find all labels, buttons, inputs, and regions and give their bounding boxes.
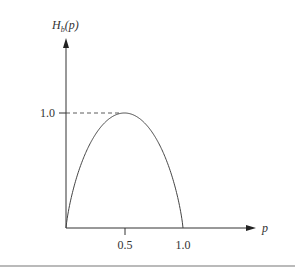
y-axis-arrow-icon xyxy=(63,38,69,48)
x-axis-label: p xyxy=(261,221,268,235)
x-axis-arrow-icon xyxy=(246,225,256,231)
x-tick-label-10: 1.0 xyxy=(176,238,191,252)
entropy-chart: 1.0 0.5 1.0 p Hb(p) xyxy=(0,0,295,271)
x-tick-label-05: 0.5 xyxy=(118,238,133,252)
entropy-curve xyxy=(66,113,183,228)
y-axis-label: Hb(p) xyxy=(51,18,79,34)
y-tick-label-1: 1.0 xyxy=(40,106,55,120)
